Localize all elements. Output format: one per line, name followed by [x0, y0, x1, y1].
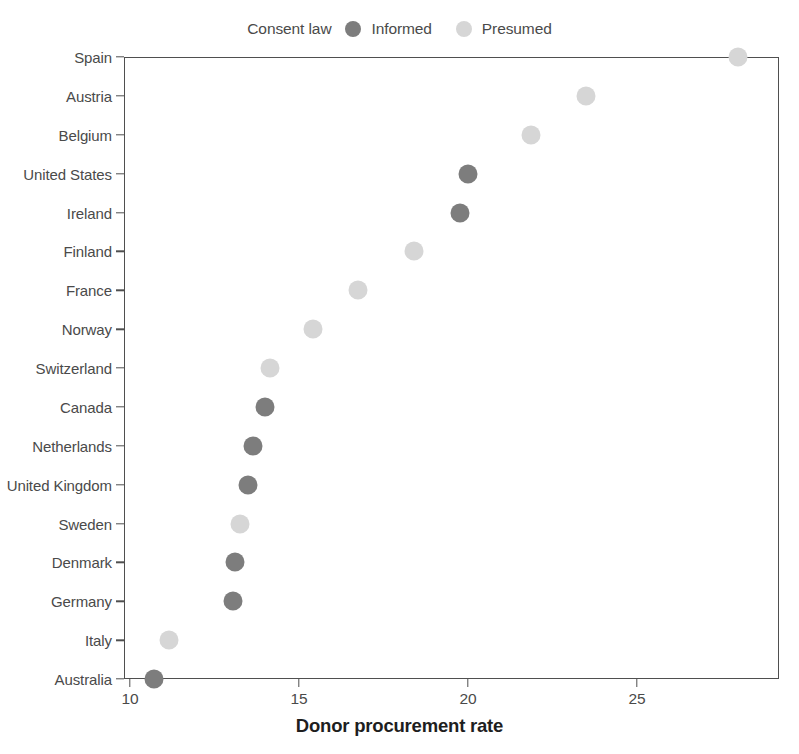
- data-point-united-states[interactable]: [459, 164, 478, 183]
- data-point-united-kingdom[interactable]: [239, 475, 258, 494]
- x-tick-mark-10: [129, 679, 130, 687]
- y-axis: SpainAustriaBelgiumUnited StatesIrelandF…: [0, 0, 112, 754]
- legend-swatch-presumed: [456, 21, 472, 37]
- x-tick-mark-25: [636, 679, 637, 687]
- y-tick-label-finland: Finland: [64, 243, 113, 260]
- legend-title: Consent law: [247, 20, 331, 38]
- data-point-belgium[interactable]: [521, 125, 540, 144]
- y-tick-label-italy: Italy: [85, 632, 112, 649]
- data-point-canada[interactable]: [256, 397, 275, 416]
- y-tick-mark-austria: [116, 95, 124, 96]
- y-tick-label-belgium: Belgium: [59, 126, 113, 143]
- y-tick-label-australia: Australia: [55, 671, 112, 688]
- y-tick-label-united-states: United States: [23, 165, 112, 182]
- y-tick-mark-united-kingdom: [116, 484, 124, 485]
- plot-area: [124, 57, 779, 679]
- y-tick-label-denmark: Denmark: [52, 554, 112, 571]
- y-tick-label-switzerland: Switzerland: [36, 360, 112, 377]
- chart-legend: Consent law Informed Presumed: [0, 14, 799, 44]
- data-point-sweden[interactable]: [230, 514, 249, 533]
- data-point-switzerland[interactable]: [261, 359, 280, 378]
- y-tick-label-austria: Austria: [66, 87, 112, 104]
- y-tick-mark-germany: [116, 601, 124, 602]
- y-tick-mark-netherlands: [116, 445, 124, 446]
- data-point-australia[interactable]: [144, 670, 163, 689]
- legend-label-presumed: Presumed: [482, 20, 552, 38]
- data-point-austria[interactable]: [577, 86, 596, 105]
- data-point-denmark[interactable]: [225, 553, 244, 572]
- y-tick-mark-norway: [116, 328, 124, 329]
- x-tick-label-10: 10: [121, 690, 138, 708]
- y-tick-label-united-kingdom: United Kingdom: [7, 476, 112, 493]
- y-tick-mark-belgium: [116, 134, 124, 135]
- data-point-france[interactable]: [349, 281, 368, 300]
- data-point-finland[interactable]: [404, 242, 423, 261]
- legend-entry-informed[interactable]: Informed: [345, 20, 431, 38]
- x-tick-label-25: 25: [628, 690, 645, 708]
- data-point-germany[interactable]: [224, 592, 243, 611]
- y-tick-label-canada: Canada: [60, 398, 112, 415]
- y-tick-mark-france: [116, 290, 124, 291]
- legend-entry-presumed[interactable]: Presumed: [456, 20, 552, 38]
- data-point-netherlands[interactable]: [244, 436, 263, 455]
- data-point-italy[interactable]: [159, 631, 178, 650]
- y-tick-mark-denmark: [116, 562, 124, 563]
- y-tick-mark-spain: [116, 56, 124, 57]
- y-tick-mark-switzerland: [116, 367, 124, 368]
- x-tick-label-20: 20: [459, 690, 476, 708]
- chart-page: Consent law Informed Presumed SpainAustr…: [0, 0, 799, 754]
- y-tick-label-norway: Norway: [62, 321, 112, 338]
- y-tick-mark-finland: [116, 251, 124, 252]
- y-tick-label-netherlands: Netherlands: [32, 437, 112, 454]
- x-tick-mark-20: [467, 679, 468, 687]
- y-tick-mark-canada: [116, 406, 124, 407]
- data-point-ireland[interactable]: [450, 203, 469, 222]
- y-tick-label-germany: Germany: [51, 593, 112, 610]
- y-tick-mark-australia: [116, 678, 124, 679]
- legend-swatch-informed: [345, 21, 361, 37]
- x-axis-title: Donor procurement rate: [0, 715, 799, 737]
- x-tick-label-15: 15: [290, 690, 307, 708]
- y-tick-label-ireland: Ireland: [67, 204, 112, 221]
- x-tick-mark-15: [298, 679, 299, 687]
- y-tick-mark-united-states: [116, 173, 124, 174]
- y-tick-label-sweden: Sweden: [58, 515, 112, 532]
- data-point-norway[interactable]: [303, 320, 322, 339]
- y-tick-label-france: France: [66, 282, 112, 299]
- y-tick-mark-ireland: [116, 212, 124, 213]
- y-tick-label-spain: Spain: [74, 49, 112, 66]
- legend-label-informed: Informed: [371, 20, 431, 38]
- y-tick-mark-sweden: [116, 523, 124, 524]
- y-tick-mark-italy: [116, 639, 124, 640]
- data-point-spain[interactable]: [729, 48, 748, 67]
